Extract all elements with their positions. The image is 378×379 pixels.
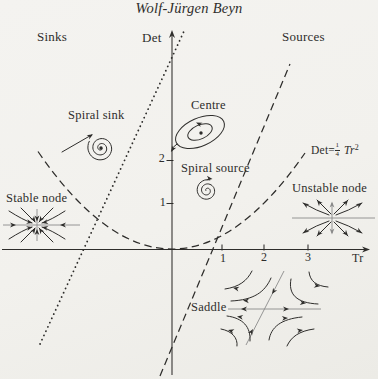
spiral-sink-label: Spiral sink xyxy=(68,109,125,123)
region-label-sinks: Sinks xyxy=(37,30,67,44)
page-header-author: Wolf-Jürgen Beyn xyxy=(0,1,378,17)
parabola-equation-label: Det=14 Tr2 xyxy=(311,142,359,158)
spiral-source-label: Spiral source xyxy=(181,162,250,176)
spiral-sink-icon xyxy=(62,132,112,160)
region-label-sources: Sources xyxy=(282,30,325,44)
scanned-figure-page: Wolf-Jürgen Beyn Sinks Det Sources Spira… xyxy=(0,0,378,379)
stable-node-label: Stable node xyxy=(6,192,67,206)
tr-tick-1: 1 xyxy=(218,252,228,265)
tr-tick-3: 3 xyxy=(303,251,313,264)
stable-node-icon xyxy=(3,208,80,242)
centre-icon xyxy=(169,109,229,156)
det-axis xyxy=(167,30,176,375)
spiral-source-icon xyxy=(197,176,214,199)
det-tick-1: 1 xyxy=(158,196,166,209)
saddle-label: Saddle xyxy=(191,301,227,315)
saddle-icon xyxy=(221,271,328,346)
det-tick-2: 2 xyxy=(157,152,165,165)
equation-prefix: Det= xyxy=(311,144,335,156)
unstable-node-label: Unstable node xyxy=(292,182,367,196)
unstable-node-icon xyxy=(292,198,375,237)
equation-exponent: 2 xyxy=(355,143,359,152)
tr-axis-label: Tr xyxy=(352,252,363,265)
dotted-boundary-line xyxy=(40,29,185,344)
equation-fraction: 14 xyxy=(335,142,340,158)
centre-label: Centre xyxy=(191,99,226,113)
det-axis-label: Det xyxy=(142,31,162,45)
tr-tick-2: 2 xyxy=(259,251,269,264)
equation-variable: Tr xyxy=(344,144,355,156)
